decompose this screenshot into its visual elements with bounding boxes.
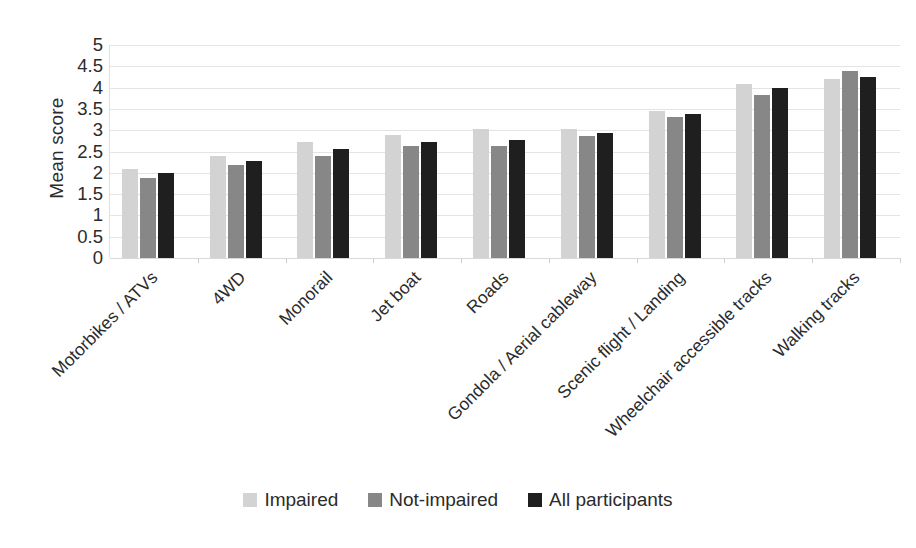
legend-label: All participants [549,489,673,511]
bar-impaired [385,135,401,258]
x-tick-mark [373,258,374,263]
y-tick-label: 1 [43,206,103,225]
legend-item[interactable]: Not-impaired [368,489,498,511]
bar-all-participants [421,142,437,258]
y-tick-label: 4 [43,78,103,97]
x-tick-mark [198,258,199,263]
bar-not-impaired [579,136,595,258]
plot-area [110,45,900,258]
bar-all-participants [509,140,525,258]
y-tick-label: 2 [43,164,103,183]
bar-group [122,45,174,258]
x-tick-mark [461,258,462,263]
bar-all-participants [685,114,701,258]
y-tick-label: 5 [43,36,103,55]
bar-not-impaired [403,146,419,258]
legend-label: Not-impaired [389,489,498,511]
y-tick-label: 0.5 [43,227,103,246]
y-tick-label: 4.5 [43,57,103,76]
x-tick-mark [724,258,725,263]
bar-all-participants [158,173,174,258]
legend-item[interactable]: Impaired [243,489,338,511]
gridline [110,258,900,259]
y-tick-label: 2.5 [43,142,103,161]
bar-group [824,45,876,258]
bar-not-impaired [667,117,683,258]
bar-all-participants [597,133,613,258]
bar-group [297,45,349,258]
bar-not-impaired [315,156,331,258]
x-tick-mark [549,258,550,263]
bar-not-impaired [842,71,858,258]
y-tick-label: 3 [43,121,103,140]
y-axis-ticks: 54.543.532.521.510.50 [40,45,103,258]
y-tick-label: 0 [43,249,103,268]
bar-impaired [824,79,840,258]
legend-label: Impaired [264,489,338,511]
legend-swatch-icon [368,493,382,507]
bar-impaired [210,156,226,258]
bar-all-participants [333,149,349,258]
chart-legend: ImpairedNot-impairedAll participants [0,489,916,511]
bar-not-impaired [491,146,507,258]
y-tick-label: 1.5 [43,185,103,204]
bar-not-impaired [228,165,244,258]
legend-swatch-icon [528,493,542,507]
y-tick-label: 3.5 [43,100,103,119]
x-tick-mark [900,258,901,263]
bar-not-impaired [754,95,770,258]
bar-all-participants [772,88,788,258]
legend-swatch-icon [243,493,257,507]
x-tick-mark [286,258,287,263]
bar-all-participants [860,77,876,258]
bar-chart: Mean score 54.543.532.521.510.50 Motorbi… [0,0,916,548]
bar-impaired [649,111,665,258]
bar-impaired [297,142,313,258]
bar-not-impaired [140,178,156,258]
bar-all-participants [246,161,262,258]
bar-group [473,45,525,258]
bar-group [210,45,262,258]
bar-group [649,45,701,258]
bar-impaired [736,84,752,258]
bar-impaired [122,169,138,258]
legend-item[interactable]: All participants [528,489,673,511]
x-tick-mark [637,258,638,263]
bar-group [561,45,613,258]
bar-impaired [561,129,577,259]
x-tick-mark [812,258,813,263]
bar-group [736,45,788,258]
bar-group [385,45,437,258]
bar-impaired [473,129,489,258]
